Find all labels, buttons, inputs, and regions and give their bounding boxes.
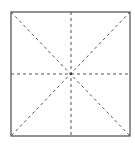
center-point (70, 73, 72, 75)
diagram-canvas (0, 0, 135, 147)
square-guide-diagram (0, 0, 135, 147)
